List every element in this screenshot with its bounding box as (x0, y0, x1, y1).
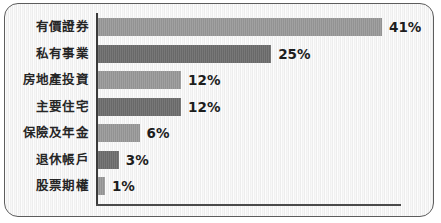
bar (98, 45, 271, 63)
category-label: 私有事業 (5, 41, 89, 67)
bar-value-label: 6% (147, 120, 170, 146)
chart-card: 有價證券41%私有事業25%房地產投資12%主要住宅12%保險及年金6%退休帳戶… (4, 3, 434, 217)
bar-value-label: 1% (112, 173, 135, 199)
bar (98, 177, 105, 195)
bar-value-label: 12% (188, 94, 220, 120)
bar-row: 保險及年金6% (5, 120, 434, 146)
bar-row: 有價證券41% (5, 14, 434, 40)
bar (98, 124, 140, 142)
category-label: 退休帳戶 (5, 147, 89, 173)
bar-row: 主要住宅12% (5, 94, 434, 120)
bar-value-label: 3% (126, 147, 149, 173)
category-label: 保險及年金 (5, 120, 89, 146)
category-label: 房地產投資 (5, 67, 89, 93)
category-label: 有價證券 (5, 14, 89, 40)
bar (98, 71, 181, 89)
bar-row: 私有事業25% (5, 41, 434, 67)
bar-value-label: 41% (389, 14, 421, 40)
bar-chart-plot-area: 有價證券41%私有事業25%房地產投資12%主要住宅12%保險及年金6%退休帳戶… (5, 4, 434, 217)
bar (98, 98, 181, 116)
bar-value-label: 25% (278, 41, 310, 67)
x-axis-baseline (96, 204, 401, 206)
bar-row: 房地產投資12% (5, 67, 434, 93)
bar (98, 151, 119, 169)
bar-row: 股票期權1% (5, 173, 434, 199)
bar (98, 18, 382, 36)
category-label: 主要住宅 (5, 94, 89, 120)
category-label: 股票期權 (5, 173, 89, 199)
bar-value-label: 12% (188, 67, 220, 93)
bar-row: 退休帳戶3% (5, 147, 434, 173)
